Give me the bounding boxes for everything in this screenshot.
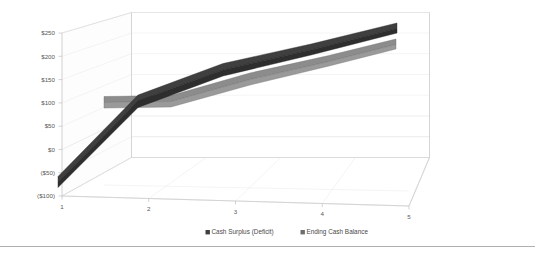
x-tick-labels: 1 2 3 4 5 [60, 203, 411, 220]
three-d-area-chart: $250 $200 $150 $100 $50 $0 ($50) ($100) … [0, 0, 535, 258]
y-tick-label: $0 [48, 146, 55, 153]
x-tick-label: 2 [147, 205, 151, 212]
x-tick-label: 3 [234, 208, 238, 215]
y-tick-label: ($50) [41, 169, 55, 176]
x-tick-label: 4 [320, 210, 324, 217]
y-tick-labels: $250 $200 $150 $100 $50 $0 ($50) ($100) [37, 29, 55, 199]
x-tick-label: 5 [407, 213, 411, 220]
chart-legend: Cash Surplus (Deficit) Ending Cash Balan… [206, 228, 369, 236]
square-marker-icon [206, 230, 210, 234]
y-axis [59, 33, 63, 196]
y-tick-label: $250 [41, 29, 55, 36]
legend-item-ending-cash-balance[interactable]: Ending Cash Balance [301, 228, 369, 236]
y-tick-label: $100 [41, 99, 55, 106]
chart-container: $250 $200 $150 $100 $50 $0 ($50) ($100) … [0, 0, 535, 258]
legend-label: Cash Surplus (Deficit) [212, 228, 274, 236]
square-marker-icon [301, 230, 305, 234]
y-tick-label: ($100) [37, 192, 55, 199]
y-tick-label: $50 [45, 122, 56, 129]
legend-item-cash-surplus-deficit[interactable]: Cash Surplus (Deficit) [206, 228, 274, 236]
plot-box [62, 13, 430, 207]
y-tick-label: $200 [41, 53, 55, 60]
legend-label: Ending Cash Balance [307, 228, 369, 236]
y-tick-label: $150 [41, 76, 55, 83]
x-tick-label: 1 [60, 203, 64, 210]
